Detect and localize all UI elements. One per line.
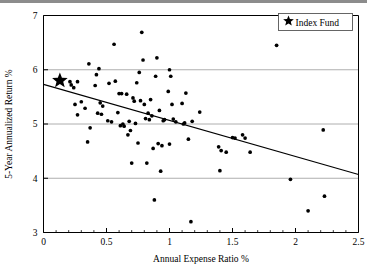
x-tick-label: 1 bbox=[167, 237, 172, 247]
y-tick-label: 4 bbox=[33, 174, 38, 184]
data-point bbox=[184, 91, 188, 95]
data-point bbox=[135, 81, 139, 85]
data-point bbox=[190, 119, 194, 123]
y-axis-tick-labels: 34567 bbox=[33, 11, 38, 238]
data-point bbox=[241, 133, 245, 137]
data-point bbox=[125, 92, 129, 96]
y-tick-label: 7 bbox=[33, 11, 38, 21]
data-point bbox=[116, 111, 120, 115]
gridlines bbox=[44, 70, 359, 179]
data-point bbox=[112, 42, 116, 46]
data-point bbox=[149, 98, 153, 102]
data-point bbox=[163, 118, 167, 122]
y-tick-label: 5 bbox=[33, 119, 38, 129]
data-point bbox=[144, 117, 148, 121]
data-point bbox=[139, 99, 143, 103]
data-point bbox=[76, 80, 80, 84]
data-point bbox=[323, 194, 327, 198]
data-point bbox=[100, 112, 104, 116]
data-point bbox=[86, 140, 90, 144]
data-point bbox=[224, 150, 228, 154]
data-point bbox=[142, 103, 146, 107]
data-point bbox=[72, 86, 76, 90]
data-point bbox=[159, 169, 163, 173]
data-point bbox=[182, 122, 186, 126]
data-point bbox=[113, 79, 117, 83]
data-point bbox=[129, 129, 133, 133]
legend-item-label: Index Fund bbox=[296, 18, 340, 28]
scatter-plot: 00.511.522.5 34567 Annual Expense Ratio … bbox=[0, 0, 367, 271]
data-point bbox=[93, 84, 97, 88]
x-tick-label: 0.5 bbox=[101, 237, 113, 247]
data-point bbox=[95, 73, 99, 77]
data-point bbox=[76, 113, 80, 117]
data-point bbox=[154, 74, 158, 78]
data-point bbox=[156, 142, 160, 146]
data-point bbox=[233, 136, 237, 140]
data-point bbox=[136, 141, 140, 145]
data-point bbox=[110, 120, 114, 124]
data-point bbox=[248, 150, 252, 154]
data-point bbox=[198, 110, 202, 114]
data-points bbox=[68, 30, 326, 223]
data-point bbox=[132, 99, 136, 103]
y-tick-label: 6 bbox=[33, 65, 38, 75]
page-top-edge-band bbox=[0, 0, 367, 3]
data-point bbox=[106, 119, 110, 123]
data-point bbox=[88, 126, 92, 130]
x-axis-ticks bbox=[44, 228, 359, 233]
data-point bbox=[145, 161, 149, 165]
data-point bbox=[131, 96, 135, 100]
data-point bbox=[170, 103, 174, 107]
data-point bbox=[160, 144, 164, 148]
data-point bbox=[168, 142, 172, 146]
data-point bbox=[158, 109, 162, 113]
data-point bbox=[306, 209, 310, 213]
data-point bbox=[68, 80, 72, 84]
data-point bbox=[130, 161, 134, 165]
data-point bbox=[83, 106, 87, 110]
x-tick-label: 0 bbox=[41, 237, 46, 247]
data-point bbox=[289, 177, 293, 181]
data-point bbox=[141, 58, 145, 62]
data-point bbox=[168, 68, 172, 72]
data-point bbox=[97, 67, 101, 71]
data-point bbox=[243, 136, 247, 140]
data-point bbox=[218, 169, 222, 173]
data-point bbox=[101, 104, 105, 108]
y-axis-title: 5-Year Annualized Return % bbox=[4, 69, 14, 179]
x-tick-label: 2 bbox=[293, 237, 298, 247]
data-point bbox=[107, 81, 111, 85]
data-point bbox=[119, 124, 123, 128]
data-point bbox=[151, 147, 155, 151]
data-point bbox=[275, 43, 279, 47]
data-point bbox=[147, 118, 151, 122]
chart-container: 00.511.522.5 34567 Annual Expense Ratio … bbox=[0, 0, 367, 271]
data-point bbox=[87, 62, 91, 66]
data-point bbox=[171, 117, 175, 121]
data-point bbox=[140, 30, 144, 34]
y-axis-ticks bbox=[44, 16, 49, 233]
data-point bbox=[166, 90, 170, 94]
data-point bbox=[79, 100, 83, 104]
y-tick-label: 3 bbox=[33, 228, 38, 238]
data-point bbox=[189, 220, 193, 224]
data-point bbox=[321, 128, 325, 132]
x-axis-tick-labels: 00.511.522.5 bbox=[41, 237, 365, 247]
data-point bbox=[219, 149, 223, 153]
data-point bbox=[187, 137, 191, 141]
data-point bbox=[69, 83, 73, 87]
data-point bbox=[127, 119, 131, 123]
data-point bbox=[155, 56, 159, 60]
x-axis-title: Annual Expense Ratio % bbox=[153, 254, 249, 264]
index-fund-star bbox=[52, 72, 68, 87]
data-point bbox=[217, 145, 221, 149]
data-point bbox=[96, 111, 100, 115]
x-tick-label: 1.5 bbox=[227, 237, 239, 247]
x-tick-label: 2.5 bbox=[353, 237, 365, 247]
data-point bbox=[146, 111, 150, 115]
data-point bbox=[137, 71, 141, 75]
data-point bbox=[153, 198, 157, 202]
chart-legend: Index Fund bbox=[279, 14, 353, 31]
data-point bbox=[169, 74, 173, 78]
